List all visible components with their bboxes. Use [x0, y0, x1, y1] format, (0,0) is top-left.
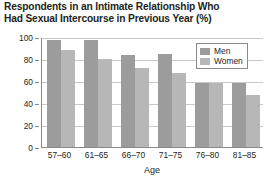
bar-women-61–65: [98, 59, 112, 147]
bar-women-66–70: [135, 68, 149, 147]
bar-women-71–75: [172, 73, 186, 147]
legend-swatch-men-icon: [200, 48, 210, 55]
y-axis-tick-mark: [35, 104, 39, 105]
y-axis-tick-mark: [35, 82, 39, 83]
x-axis-title: Age: [41, 165, 263, 176]
legend-item-men: Men: [200, 46, 243, 56]
chart-title-line-2: Had Sexual Intercourse in Previous Year …: [4, 13, 266, 25]
bar-men-61–65: [84, 40, 98, 147]
chart-title: Respondents in an Intimate Relationship …: [4, 1, 266, 24]
bar-women-57–60: [61, 50, 75, 147]
y-axis-tick-label: 80: [24, 56, 33, 65]
y-axis-tick-mark: [35, 148, 39, 149]
bar-women-76–80: [209, 83, 223, 147]
y-axis-tick-label: 40: [24, 100, 33, 109]
legend-item-women: Women: [200, 56, 243, 66]
chart-legend: Men Women: [196, 43, 248, 69]
y-axis-tick-label: 20: [24, 122, 33, 131]
bar-group: [158, 38, 186, 147]
x-axis-tick-labels: 57–6061–6566–7071–7576–8081–85: [41, 150, 263, 162]
x-axis-tick-label: 66–70: [115, 150, 152, 160]
bar-group: [84, 38, 112, 147]
chart-container: Respondents in an Intimate Relationship …: [0, 0, 269, 185]
bar-women-81–85: [246, 95, 260, 147]
x-axis-tick-label: 57–60: [41, 150, 78, 160]
legend-label-women: Women: [214, 57, 243, 66]
chart-title-line-1: Respondents in an Intimate Relationship …: [4, 1, 266, 13]
y-axis: 020406080100: [0, 32, 39, 154]
y-axis-tick-mark: [35, 60, 39, 61]
bar-group: [121, 38, 149, 147]
x-axis-tick-label: 61–65: [78, 150, 115, 160]
bar-men-57–60: [47, 40, 61, 147]
legend-swatch-women-icon: [200, 58, 210, 65]
y-axis-tick-mark: [35, 38, 39, 39]
bar-men-81–85: [232, 83, 246, 147]
y-axis-tick-label: 60: [24, 78, 33, 87]
legend-label-men: Men: [214, 47, 230, 56]
x-axis-tick-label: 71–75: [152, 150, 189, 160]
bar-men-76–80: [195, 83, 209, 147]
bar-group: [47, 38, 75, 147]
y-axis-tick-label: 100: [19, 34, 33, 43]
x-axis-tick-label: 81–85: [226, 150, 263, 160]
y-axis-tick-mark: [35, 126, 39, 127]
bar-men-71–75: [158, 54, 172, 148]
y-axis-tick-label: 0: [28, 144, 33, 153]
bar-men-66–70: [121, 55, 135, 147]
x-axis-tick-label: 76–80: [189, 150, 226, 160]
